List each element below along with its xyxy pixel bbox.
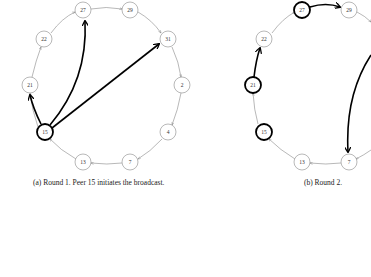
node-a-21: 21 (22, 77, 38, 93)
node-b-21: 21 (245, 77, 261, 93)
node-label: 21 (27, 82, 33, 88)
node-a-13: 13 (75, 154, 91, 170)
node-label: 2 (181, 82, 184, 88)
ring-nodes: 272931247131521222729222115137 (22, 2, 357, 170)
node-a-22: 22 (36, 31, 52, 47)
node-label: 27 (299, 7, 305, 13)
caption-a: (a) Round 1. Peer 15 initiates the broad… (33, 178, 164, 187)
node-label: 22 (41, 36, 47, 42)
node-label: 7 (348, 159, 351, 165)
node-a-27: 27 (75, 2, 91, 18)
node-a-2: 2 (174, 77, 190, 93)
node-a-15: 15 (37, 124, 53, 140)
node-b-13: 13 (294, 154, 310, 170)
node-label: 13 (80, 159, 86, 165)
node-label: 21 (250, 82, 256, 88)
node-label: 4 (167, 129, 170, 135)
node-label: 7 (129, 159, 132, 165)
node-b-29: 29 (341, 2, 357, 18)
node-a-31: 31 (160, 31, 176, 47)
node-label: 22 (261, 36, 267, 42)
node-label: 15 (42, 129, 48, 135)
broadcast-diagram: 272931247131521222729222115137 (0, 0, 371, 277)
node-label: 29 (127, 7, 133, 13)
node-b-22: 22 (256, 31, 272, 47)
caption-b: (b) Round 2. (304, 178, 342, 187)
node-label: 27 (80, 7, 86, 13)
node-b-15: 15 (256, 124, 272, 140)
node-a-7: 7 (122, 154, 138, 170)
node-a-4: 4 (160, 124, 176, 140)
node-label: 13 (299, 159, 305, 165)
node-a-29: 29 (122, 2, 138, 18)
node-b-27: 27 (294, 2, 310, 18)
node-label: 31 (165, 36, 171, 42)
node-label: 15 (261, 129, 267, 135)
node-b-7: 7 (341, 154, 357, 170)
node-label: 29 (346, 7, 352, 13)
